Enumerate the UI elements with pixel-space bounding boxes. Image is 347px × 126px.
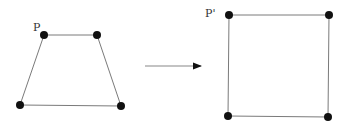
point-p-prime <box>225 11 233 19</box>
point-p <box>40 31 48 39</box>
diagram-canvas: P P' <box>0 0 347 126</box>
point-bottom-left <box>16 101 24 109</box>
source-trapezoid: P <box>16 21 125 110</box>
label-p-prime: P' <box>205 7 215 20</box>
point-bottom-left-prime <box>224 112 232 120</box>
point-top-right-prime <box>325 11 333 19</box>
label-p: P <box>33 21 41 34</box>
target-rectangle: P' <box>205 7 333 121</box>
point-top-right <box>93 31 101 39</box>
point-bottom-right <box>117 102 125 110</box>
point-bottom-right-prime <box>324 113 332 121</box>
